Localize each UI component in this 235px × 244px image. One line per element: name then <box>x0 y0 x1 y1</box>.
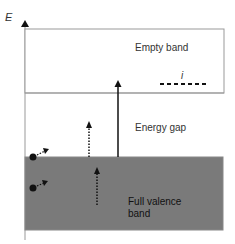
valence-band-label-2: band <box>128 208 150 219</box>
electron-1 <box>30 154 37 161</box>
energy-gap-label: Energy gap <box>135 122 186 133</box>
impurity-label: i <box>181 70 183 81</box>
valence-band-box <box>25 157 223 230</box>
empty-band-label: Empty band <box>135 42 188 53</box>
band-diagram <box>0 0 235 244</box>
axis-label: E <box>5 11 12 23</box>
electron-2 <box>30 185 37 192</box>
axis-arrow-icon <box>21 20 29 27</box>
empty-band-box <box>25 29 224 93</box>
valence-band-label-1: Full valence <box>128 196 181 207</box>
